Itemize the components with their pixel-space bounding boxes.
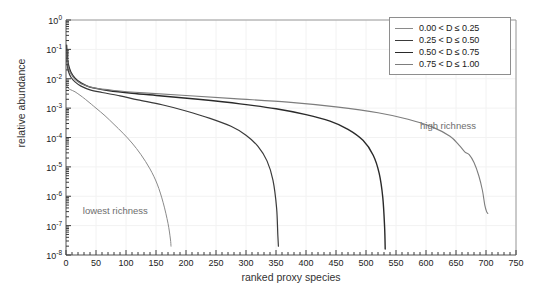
y-tick-label: 10-7 bbox=[28, 220, 62, 232]
legend-item[interactable]: 0.50 < D ≤ 0.75 bbox=[395, 46, 505, 58]
x-axis-label: ranked proxy species bbox=[66, 271, 516, 283]
y-tick-label: 10-2 bbox=[28, 73, 62, 85]
legend-item[interactable]: 0.25 < D ≤ 0.50 bbox=[395, 34, 505, 46]
chart-annotation: high richness bbox=[420, 120, 476, 131]
y-axis-ticks: 10010-110-210-310-410-510-610-710-8 bbox=[22, 0, 62, 292]
chart-figure: 10010-110-210-310-410-510-610-710-8 0501… bbox=[0, 0, 541, 292]
data-curve-3 bbox=[67, 51, 488, 214]
y-tick-label: 10-4 bbox=[28, 132, 62, 144]
legend-label: 0.25 < D ≤ 0.50 bbox=[419, 35, 479, 45]
y-tick-label: 10-5 bbox=[28, 161, 62, 173]
legend-swatch-icon bbox=[395, 64, 413, 65]
y-axis-label: relative abundance bbox=[15, 28, 27, 178]
legend-label: 0.00 < D ≤ 0.25 bbox=[419, 23, 479, 33]
y-tick-label: 10-1 bbox=[28, 43, 62, 55]
data-curves bbox=[67, 45, 488, 249]
legend-swatch-icon bbox=[395, 28, 413, 29]
legend-swatch-icon bbox=[395, 52, 413, 53]
legend-item[interactable]: 0.75 < D ≤ 1.00 bbox=[395, 58, 505, 70]
chart-legend: 0.00 < D ≤ 0.25 0.25 < D ≤ 0.50 0.50 < D… bbox=[389, 17, 511, 75]
y-tick-label: 100 bbox=[28, 14, 62, 26]
legend-swatch-icon bbox=[395, 40, 413, 41]
legend-label: 0.50 < D ≤ 0.75 bbox=[419, 47, 479, 57]
y-tick-label: 10-3 bbox=[28, 102, 62, 114]
chart-annotation: lowest richness bbox=[83, 205, 148, 216]
legend-item[interactable]: 0.00 < D ≤ 0.25 bbox=[395, 22, 505, 34]
legend-label: 0.75 < D ≤ 1.00 bbox=[419, 59, 479, 69]
x-tick-label: 750 bbox=[496, 258, 536, 268]
data-curve-1 bbox=[67, 57, 279, 246]
data-curve-2 bbox=[67, 45, 386, 249]
y-tick-label: 10-6 bbox=[28, 190, 62, 202]
